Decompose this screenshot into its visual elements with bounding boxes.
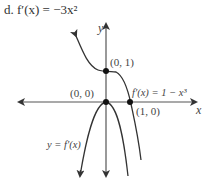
curve-label-f: f′(x) = 1 − x³ [132, 87, 187, 99]
curve-label-f-prime: y = f′(x) [46, 139, 81, 151]
point-1-0 [127, 99, 133, 105]
curve-f-prime [80, 102, 128, 176]
x-axis-label: x [195, 103, 202, 117]
y-axis-label: y [97, 21, 104, 35]
point-0-0 [103, 99, 109, 105]
point-label-1-0: (1, 0) [136, 105, 160, 118]
point-0-1 [103, 68, 109, 74]
point-label-0-1: (0, 1) [110, 56, 134, 69]
point-label-0-0: (0, 0) [70, 87, 94, 100]
graph: y x (0, 1) (0, 0) (1, 0) f′(x) = 1 − x³ … [0, 0, 210, 193]
